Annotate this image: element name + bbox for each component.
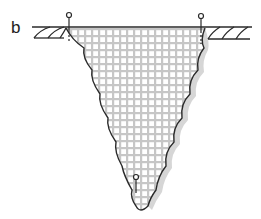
right-soil xyxy=(208,27,250,39)
left-soil xyxy=(34,27,66,38)
pit-diagram xyxy=(0,0,261,219)
mesh-lining xyxy=(60,26,210,216)
